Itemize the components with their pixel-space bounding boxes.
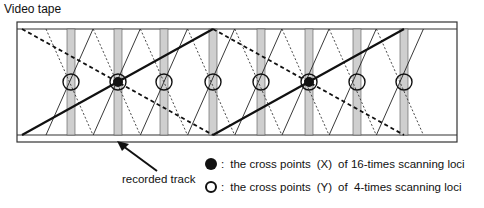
recorded-track-arrow [117,141,157,171]
cross-point-x-marker [304,77,314,87]
thin-solid-scanning-loci [46,29,423,135]
cross-point-x-marker [113,77,123,87]
recorded-track-bar [67,29,75,135]
recorded-track-bar [400,29,408,135]
thin-dotted-scanning-loci [46,29,423,135]
recorded-track-label: recorded track [122,173,196,185]
legend-item-4-times: : the cross points (Y) of 4-times scanni… [205,181,461,193]
tape-outline [17,22,457,142]
legend-item-16-times: : the cross points (X) of 16-times scann… [205,158,465,170]
recorded-track-bar [209,29,217,135]
video-tape-diagram [0,0,484,208]
open-circle-icon [205,181,217,193]
recorded-track-bar [353,29,361,135]
filled-circle-icon [205,158,217,170]
